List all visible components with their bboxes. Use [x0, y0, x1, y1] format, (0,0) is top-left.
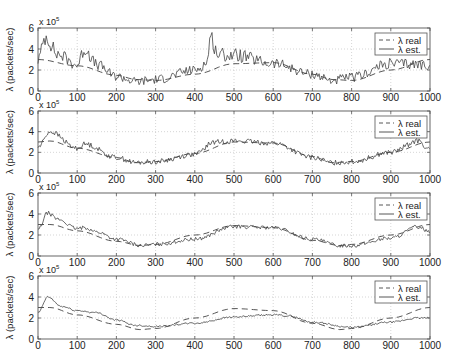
legend: λ realλ est. [375, 116, 427, 138]
x-tick-label: 900 [382, 257, 399, 268]
y-scale-factor: x 105 [39, 181, 60, 192]
chart-svg: 010020030040050060070080090010000246x 10… [0, 0, 456, 361]
x-tick-label: 400 [186, 257, 203, 268]
panel-1: 010020030040050060070080090010000246x 10… [4, 16, 442, 103]
legend-label: λ est. [398, 292, 421, 303]
y-scale-factor: x 105 [39, 99, 60, 110]
y-tick-label: 6 [28, 106, 34, 117]
series-est-line [38, 132, 430, 166]
y-tick-label: 0 [28, 168, 34, 179]
x-tick-label: 600 [265, 257, 282, 268]
x-tick-label: 100 [69, 257, 86, 268]
x-tick-label: 100 [69, 92, 86, 103]
x-tick-label: 0 [35, 340, 41, 351]
x-tick-label: 300 [147, 174, 164, 185]
x-tick-label: 600 [265, 174, 282, 185]
y-tick-label: 4 [28, 292, 34, 303]
y-tick-label: 2 [28, 313, 34, 324]
y-axis-label: λ (packets/sec) [4, 28, 15, 92]
panel-4: 010020030040050060070080090010000246x 10… [4, 264, 442, 351]
x-tick-label: 200 [108, 174, 125, 185]
y-tick-label: 2 [28, 147, 34, 158]
y-tick-label: 0 [28, 251, 34, 262]
x-tick-label: 600 [265, 340, 282, 351]
x-tick-label: 300 [147, 340, 164, 351]
y-axis-label: λ (packets/sec) [4, 193, 15, 257]
x-tick-label: 200 [108, 92, 125, 103]
x-tick-label: 700 [304, 257, 321, 268]
y-tick-label: 4 [28, 209, 34, 220]
y-tick-label: 2 [28, 65, 34, 76]
legend-label: λ est. [398, 127, 421, 138]
x-tick-label: 200 [108, 257, 125, 268]
panel-2: 010020030040050060070080090010000246x 10… [4, 99, 442, 185]
x-tick-label: 100 [69, 174, 86, 185]
x-tick-label: 1000 [419, 92, 442, 103]
x-tick-label: 200 [108, 340, 125, 351]
x-tick-label: 300 [147, 257, 164, 268]
legend-label: λ est. [398, 209, 421, 220]
x-tick-label: 1000 [419, 257, 442, 268]
y-axis-label: λ (packets/sec) [4, 110, 15, 174]
x-tick-label: 700 [304, 92, 321, 103]
x-tick-label: 800 [343, 340, 360, 351]
y-axis-label: λ (packets/sec) [4, 276, 15, 340]
legend: λ realλ est. [375, 281, 427, 303]
y-tick-label: 6 [28, 271, 34, 282]
y-tick-label: 6 [28, 188, 34, 199]
x-tick-label: 500 [226, 340, 243, 351]
x-tick-label: 500 [226, 257, 243, 268]
x-tick-label: 400 [186, 92, 203, 103]
x-tick-label: 800 [343, 174, 360, 185]
y-tick-label: 0 [28, 334, 34, 345]
x-tick-label: 900 [382, 340, 399, 351]
x-tick-label: 500 [226, 92, 243, 103]
x-tick-label: 900 [382, 174, 399, 185]
y-tick-label: 2 [28, 230, 34, 241]
panel-3: 010020030040050060070080090010000246x 10… [4, 181, 442, 268]
legend: λ realλ est. [375, 198, 427, 220]
x-tick-label: 800 [343, 257, 360, 268]
x-tick-label: 800 [343, 92, 360, 103]
x-tick-label: 1000 [419, 340, 442, 351]
x-tick-label: 1000 [419, 174, 442, 185]
legend: λ realλ est. [375, 33, 427, 55]
y-tick-label: 4 [28, 44, 34, 55]
x-tick-label: 100 [69, 340, 86, 351]
x-tick-label: 900 [382, 92, 399, 103]
x-tick-label: 400 [186, 174, 203, 185]
y-tick-label: 6 [28, 23, 34, 34]
x-tick-label: 700 [304, 174, 321, 185]
figure: 010020030040050060070080090010000246x 10… [0, 0, 456, 361]
y-tick-label: 0 [28, 86, 34, 97]
x-tick-label: 700 [304, 340, 321, 351]
x-tick-label: 500 [226, 174, 243, 185]
x-tick-label: 600 [265, 92, 282, 103]
y-scale-factor: x 105 [39, 16, 60, 27]
y-scale-factor: x 105 [39, 264, 60, 275]
x-tick-label: 300 [147, 92, 164, 103]
legend-label: λ est. [398, 44, 421, 55]
x-tick-label: 400 [186, 340, 203, 351]
y-tick-label: 4 [28, 126, 34, 137]
